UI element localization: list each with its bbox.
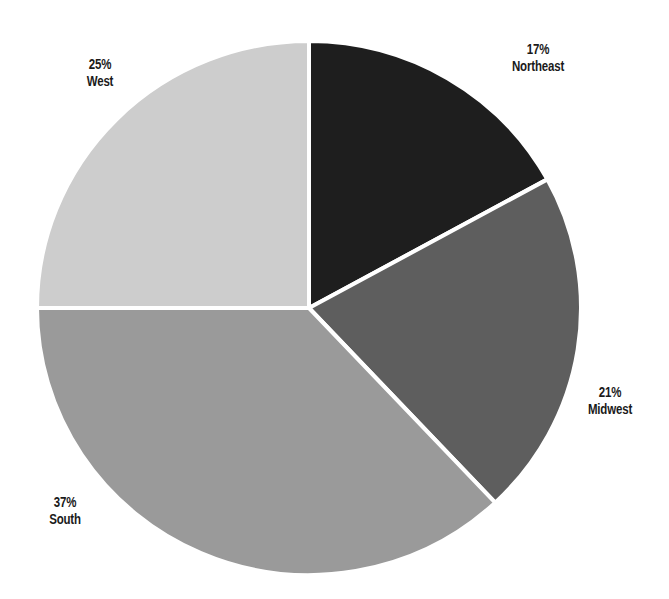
label-midwest-pct: 21% — [577, 384, 643, 401]
label-south-name: South — [36, 511, 93, 528]
label-west-name: West — [75, 73, 124, 90]
label-midwest-name: Midwest — [577, 401, 643, 418]
label-west: 25% West — [75, 56, 124, 90]
label-south-pct: 37% — [36, 494, 93, 511]
label-northeast-name: Northeast — [489, 58, 587, 75]
label-northeast-pct: 17% — [489, 41, 587, 58]
label-midwest: 21% Midwest — [577, 384, 643, 418]
label-south: 37% South — [36, 494, 93, 528]
label-northeast: 17% Northeast — [489, 41, 587, 75]
label-west-pct: 25% — [75, 56, 124, 73]
